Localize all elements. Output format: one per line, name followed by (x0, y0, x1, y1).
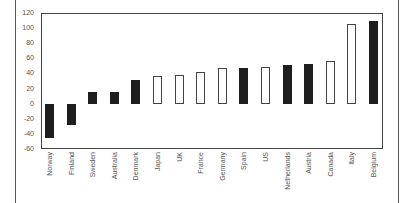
y-tick-label: 40 (4, 69, 34, 77)
bar-sweden (88, 92, 97, 103)
x-tick-label: Canada (326, 152, 335, 177)
bar-germany (218, 68, 227, 104)
bar-italy (347, 24, 356, 103)
y-tick-label: 0 (4, 100, 34, 108)
bar-finland (67, 104, 76, 125)
bar-us (261, 67, 270, 104)
bar-japan (153, 76, 162, 103)
y-tick-label: -60 (4, 145, 34, 153)
x-tick-label: UK (175, 152, 184, 162)
bar-australia (110, 92, 119, 104)
bar-canada (326, 61, 335, 104)
x-tick-label: Germany (218, 152, 227, 181)
y-tick-label: 80 (4, 39, 34, 47)
x-tick-label: Sweden (88, 152, 97, 177)
x-tick-label: Austria (304, 152, 313, 174)
x-tick-label: Finland (67, 152, 76, 175)
outer-frame-right-border (398, 0, 399, 203)
x-tick-label: Denmark (131, 152, 140, 180)
bar-denmark (131, 80, 140, 103)
x-tick-label: Norway (45, 152, 54, 176)
x-tick-label: US (261, 152, 270, 162)
x-tick-label: Italy (347, 152, 356, 165)
bar-netherlands (283, 65, 292, 104)
x-tick-label: Netherlands (283, 152, 292, 190)
x-tick-label: Australia (110, 152, 119, 179)
bar-france (196, 72, 205, 104)
bar-norway (45, 104, 54, 139)
y-tick-label: 100 (4, 24, 34, 32)
x-tick-label: Belgium (369, 152, 378, 177)
bar-uk (175, 75, 184, 104)
x-tick-label: Spain (239, 152, 248, 170)
y-tick-label: -40 (4, 130, 34, 138)
bar-spain (239, 68, 248, 104)
y-tick-label: 60 (4, 54, 34, 62)
y-tick-label: -20 (4, 115, 34, 123)
x-tick-label: Japan (153, 152, 162, 171)
y-tick-label: 20 (4, 85, 34, 93)
bar-belgium (369, 21, 378, 103)
x-tick-label: France (196, 152, 205, 174)
bar-austria (304, 64, 313, 103)
y-tick-label: 120 (4, 9, 34, 17)
